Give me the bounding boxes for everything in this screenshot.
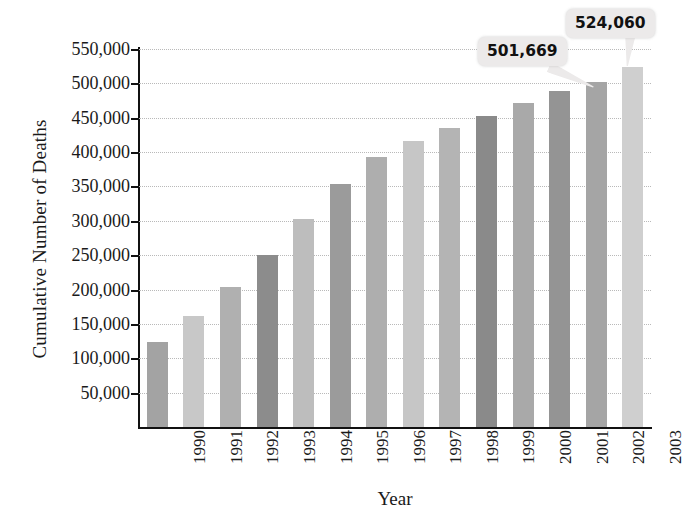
y-axis-tick: [131, 255, 139, 257]
bar-1994[interactable]: [293, 219, 314, 427]
bar-2001[interactable]: [549, 91, 570, 427]
y-axis-tick: [131, 393, 139, 395]
y-axis-tick: [131, 290, 139, 292]
bar-1991[interactable]: [183, 316, 204, 427]
y-axis-tick-label: 450,000: [30, 109, 130, 127]
x-axis-tick-label-1993: 1993: [301, 430, 318, 486]
y-axis-tick: [131, 152, 139, 154]
y-axis-tick-label: 400,000: [30, 143, 130, 161]
x-axis-tick-label-2002: 2002: [630, 430, 647, 486]
y-axis-tick: [131, 49, 139, 51]
x-axis-tick-labels: 1990199119921993199419951996199719981999…: [139, 430, 651, 486]
x-axis-tick-label-2003: 2003: [667, 430, 684, 486]
x-axis-tick-label-1999: 1999: [520, 430, 537, 486]
y-axis-tick-label: 350,000: [30, 177, 130, 195]
y-axis-tick-label: 300,000: [30, 212, 130, 230]
bars-layer: [139, 49, 651, 427]
y-axis-tick-label: 550,000: [30, 40, 130, 58]
bar-1996[interactable]: [366, 157, 387, 427]
bar-1993[interactable]: [257, 255, 278, 427]
x-axis-tick-label-1996: 1996: [411, 430, 428, 486]
y-axis-tick-label: 250,000: [30, 246, 130, 264]
x-axis-tick-label-1995: 1995: [374, 430, 391, 486]
y-axis-tick: [131, 186, 139, 188]
bar-1998[interactable]: [439, 128, 460, 427]
callout-label-2003: 524,060: [566, 9, 655, 38]
x-axis-line: [138, 427, 652, 429]
bar-1997[interactable]: [403, 141, 424, 427]
y-axis-tick-label: 50,000: [30, 384, 130, 402]
y-axis-tick: [131, 118, 139, 120]
bar-1992[interactable]: [220, 287, 241, 427]
y-axis-tick: [131, 83, 139, 85]
bar-1990[interactable]: [147, 342, 168, 427]
x-axis-tick-label-1990: 1990: [191, 430, 208, 486]
x-axis-tick-label-2001: 2001: [594, 430, 611, 486]
x-axis-tick-label-1998: 1998: [484, 430, 501, 486]
callout-label-2002: 501,669: [478, 37, 567, 66]
x-axis-tick-label-1997: 1997: [447, 430, 464, 486]
bar-1999[interactable]: [476, 116, 497, 427]
x-axis-tick-label-1992: 1992: [264, 430, 281, 486]
y-axis-tick: [131, 221, 139, 223]
bar-2003[interactable]: [622, 67, 643, 427]
x-axis-title: Year: [139, 488, 651, 510]
y-axis-tick: [131, 358, 139, 360]
bar-2000[interactable]: [513, 103, 534, 427]
bar-1995[interactable]: [330, 184, 351, 427]
y-axis-tick-label: 150,000: [30, 315, 130, 333]
x-axis-tick-label-2000: 2000: [557, 430, 574, 486]
y-axis-tick-labels: 550,000500,000450,000400,000350,000300,0…: [18, 49, 130, 427]
y-axis-tick-label: 200,000: [30, 281, 130, 299]
y-axis-tick-label: 100,000: [30, 349, 130, 367]
y-axis-tick: [131, 324, 139, 326]
bar-2002[interactable]: [586, 82, 607, 427]
x-axis-tick-label-1994: 1994: [338, 430, 355, 486]
y-axis-tick-label: 500,000: [30, 74, 130, 92]
x-axis-tick-label-1991: 1991: [228, 430, 245, 486]
